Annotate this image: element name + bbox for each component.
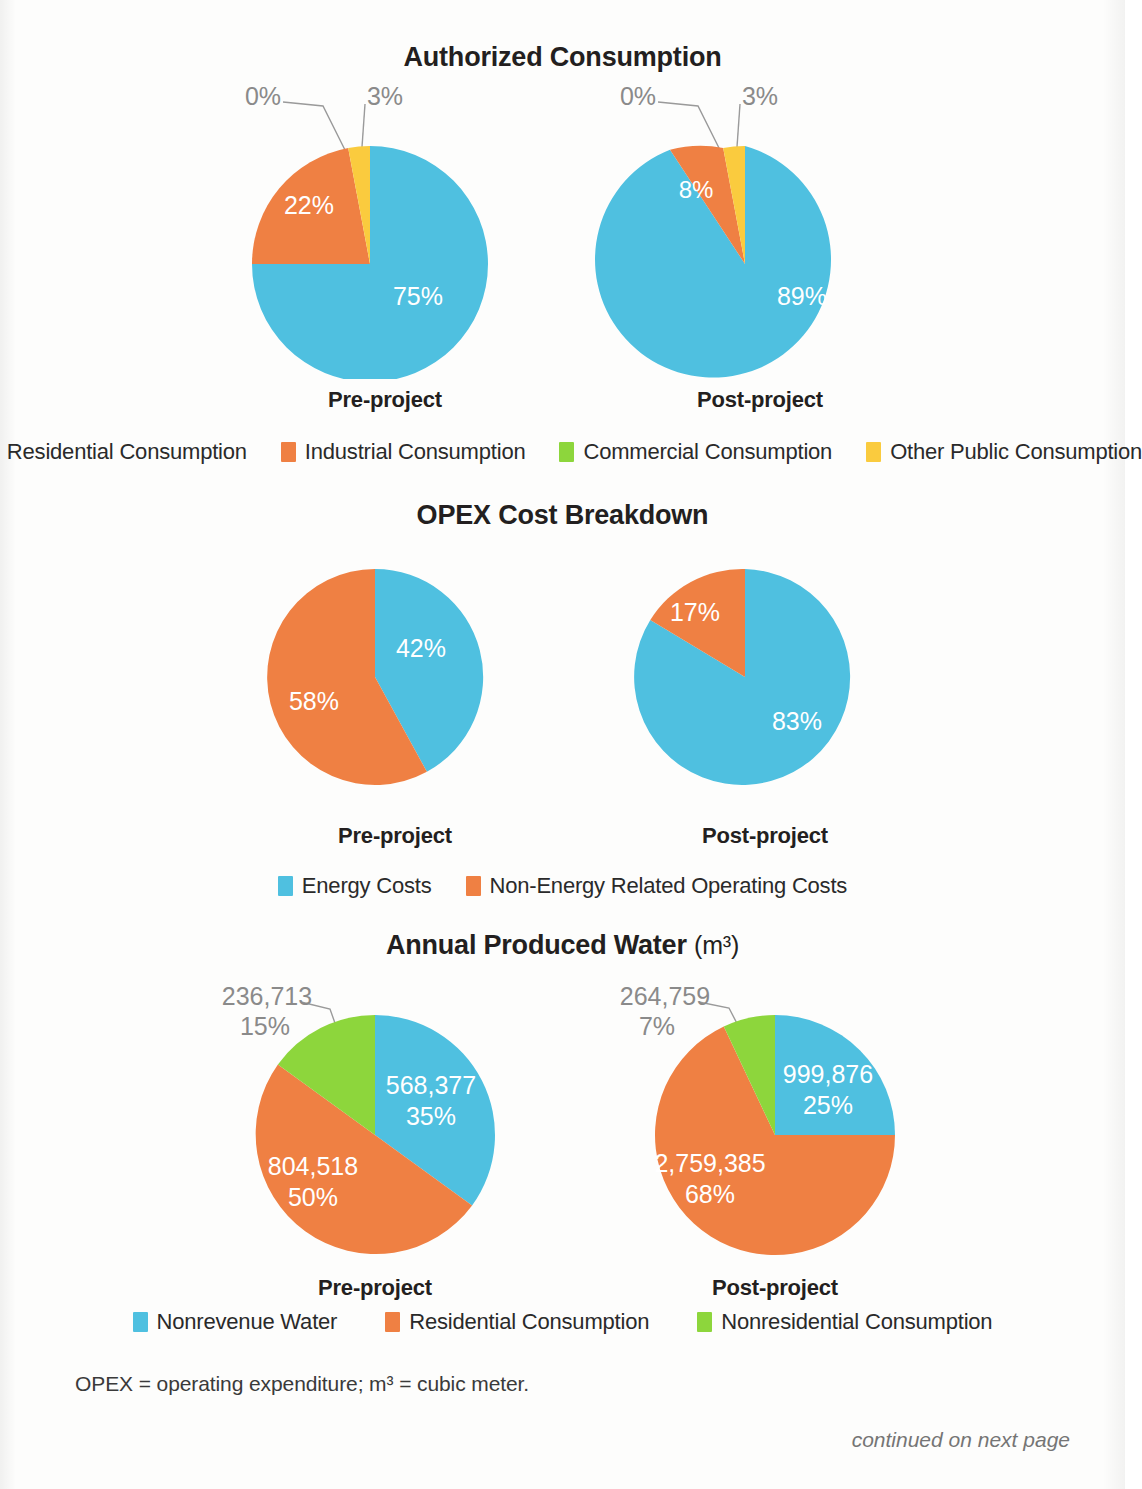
- chart-authorized-post: 0% 3% 89% 8% Post-project: [580, 79, 940, 413]
- legend-item-residential: Residential Consumption: [0, 439, 247, 465]
- legend-label: Residential Consumption: [409, 1309, 649, 1335]
- legend-label: Other Public Consumption: [890, 439, 1142, 465]
- callout-label-nonresidential-percent: 15%: [240, 1012, 290, 1040]
- pie-label-residential: 89%: [777, 282, 827, 310]
- pie-label-industrial: 22%: [284, 191, 334, 219]
- pie-chart-authorized-pre: 0% 3% 75% 22%: [205, 79, 565, 379]
- pie-chart-opex-pre: 42% 58%: [215, 545, 575, 815]
- pie-label-residential-percent: 68%: [685, 1180, 735, 1208]
- charts-row: 236,713 15% 568,377 35% 804,518 50% Pre-…: [0, 977, 1125, 1297]
- section-title: Annual Produced Water (m³): [0, 930, 1125, 961]
- pie-label-residential: 75%: [393, 282, 443, 310]
- legend-swatch-icon: [697, 1312, 712, 1332]
- charts-row: 42% 58% Pre-project 83% 17% Post-project: [0, 545, 1125, 865]
- legend-authorized-consumption: Residential Consumption Industrial Consu…: [0, 439, 1125, 465]
- pie-chart-opex-post: 83% 17%: [585, 545, 945, 815]
- callout-line-commercial: [658, 102, 721, 152]
- section-authorized-consumption: Authorized Consumption 0% 3%: [0, 42, 1125, 465]
- callout-label-commercial: 0%: [245, 82, 281, 110]
- legend-label: Energy Costs: [302, 873, 432, 899]
- legend-swatch-icon: [278, 876, 293, 896]
- continued-note: continued on next page: [852, 1428, 1070, 1452]
- legend-label: Non-Energy Related Operating Costs: [490, 873, 848, 899]
- chart-authorized-pre: 0% 3% 75% 22% Pre-project: [205, 79, 565, 413]
- legend-opex: Energy Costs Non-Energy Related Operatin…: [0, 873, 1125, 899]
- footnote-abbreviations: OPEX = operating expenditure; m³ = cubic…: [75, 1372, 529, 1396]
- legend-swatch-icon: [466, 876, 481, 896]
- pie-label-nonrevenue-value: 999,876: [783, 1060, 873, 1088]
- pie-label-industrial: 8%: [679, 176, 714, 203]
- chart-water-post: 264,759 7% 999,876 25% 2,759,385 68% Pos…: [585, 977, 965, 1301]
- pie-label-residential-percent: 50%: [288, 1183, 338, 1211]
- legend-label: Nonresidential Consumption: [721, 1309, 992, 1335]
- callout-label-nonresidential-percent: 7%: [639, 1012, 675, 1040]
- callout-label-commercial: 0%: [620, 82, 656, 110]
- legend-label: Commercial Consumption: [583, 439, 832, 465]
- section-title-text: Annual Produced Water: [386, 930, 687, 960]
- footnote-text: OPEX = operating expenditure; m³ = cubic…: [75, 1372, 529, 1395]
- section-title-text: OPEX Cost Breakdown: [417, 500, 709, 530]
- pie-label-energy: 42%: [396, 634, 446, 662]
- legend-item-industrial: Industrial Consumption: [281, 439, 526, 465]
- chart-opex-pre: 42% 58% Pre-project: [215, 545, 575, 849]
- continued-note-text: continued on next page: [852, 1428, 1070, 1451]
- pie-chart-water-post: 264,759 7% 999,876 25% 2,759,385 68%: [585, 977, 965, 1267]
- chart-water-pre: 236,713 15% 568,377 35% 804,518 50% Pre-…: [185, 977, 565, 1301]
- chart-opex-post: 83% 17% Post-project: [585, 545, 945, 849]
- pie-label-nonrevenue-percent: 25%: [803, 1091, 853, 1119]
- section-title-unit: (m³): [694, 931, 739, 959]
- section-opex-cost-breakdown: OPEX Cost Breakdown 42% 58% Pre-project: [0, 500, 1125, 899]
- legend-label: Industrial Consumption: [305, 439, 526, 465]
- pie-chart-authorized-post: 0% 3% 89% 8%: [580, 79, 940, 379]
- section-title-text: Authorized Consumption: [403, 42, 721, 72]
- charts-row: 0% 3% 75% 22% Pre-project: [0, 79, 1125, 419]
- callout-line-other-public: [362, 104, 365, 147]
- chart-caption-post: Post-project: [585, 1275, 965, 1301]
- pie-label-residential-value: 2,759,385: [654, 1149, 765, 1177]
- legend-label: Nonrevenue Water: [157, 1309, 338, 1335]
- section-annual-produced-water: Annual Produced Water (m³) 236,713 15%: [0, 930, 1125, 1335]
- legend-swatch-icon: [281, 442, 296, 462]
- pie-label-non-energy: 58%: [289, 687, 339, 715]
- callout-label-nonresidential-value: 236,713: [222, 982, 312, 1010]
- callout-line-other-public: [737, 104, 740, 147]
- legend-swatch-icon: [385, 1312, 400, 1332]
- section-title: OPEX Cost Breakdown: [0, 500, 1125, 531]
- pie-chart-water-pre: 236,713 15% 568,377 35% 804,518 50%: [185, 977, 565, 1267]
- legend-item-nonresidential-consumption: Nonresidential Consumption: [697, 1309, 992, 1335]
- pie-label-nonrevenue-value: 568,377: [386, 1071, 476, 1099]
- legend-swatch-icon: [559, 442, 574, 462]
- legend-swatch-icon: [133, 1312, 148, 1332]
- pie-label-residential-value: 804,518: [268, 1152, 358, 1180]
- callout-line-commercial: [283, 102, 346, 152]
- pie-label-nonrevenue-percent: 35%: [406, 1102, 456, 1130]
- chart-caption-post: Post-project: [580, 387, 940, 413]
- legend-swatch-icon: [866, 442, 881, 462]
- legend-item-nonrevenue-water: Nonrevenue Water: [133, 1309, 338, 1335]
- pie-label-energy: 83%: [772, 707, 822, 735]
- legend-item-residential-consumption: Residential Consumption: [385, 1309, 649, 1335]
- callout-label-other-public: 3%: [367, 82, 403, 110]
- legend-label: Residential Consumption: [7, 439, 247, 465]
- callout-label-nonresidential-value: 264,759: [620, 982, 710, 1010]
- legend-item-commercial: Commercial Consumption: [559, 439, 832, 465]
- legend-item-energy-costs: Energy Costs: [278, 873, 432, 899]
- chart-caption-post: Post-project: [585, 823, 945, 849]
- chart-caption-pre: Pre-project: [215, 823, 575, 849]
- legend-annual-produced-water: Nonrevenue Water Residential Consumption…: [0, 1309, 1125, 1335]
- chart-caption-pre: Pre-project: [185, 1275, 565, 1301]
- section-title: Authorized Consumption: [0, 42, 1125, 73]
- pie-label-non-energy: 17%: [670, 598, 720, 626]
- legend-item-other-public: Other Public Consumption: [866, 439, 1142, 465]
- callout-label-other-public: 3%: [742, 82, 778, 110]
- legend-item-non-energy-costs: Non-Energy Related Operating Costs: [466, 873, 848, 899]
- chart-caption-pre: Pre-project: [205, 387, 565, 413]
